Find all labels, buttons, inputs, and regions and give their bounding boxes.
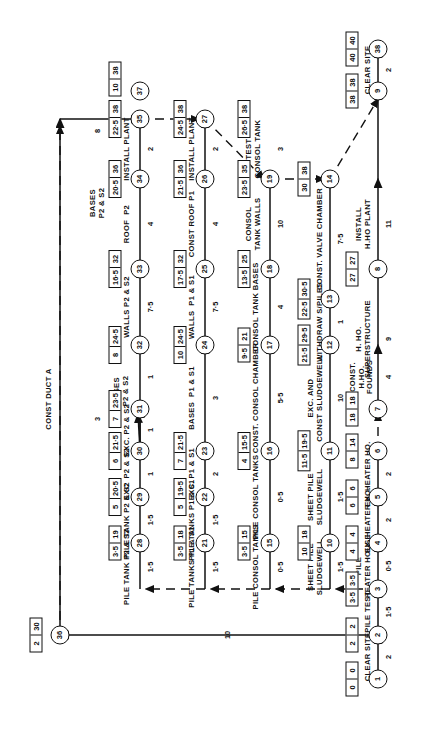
- early-time: 11·5: [299, 452, 310, 471]
- early-time: 20·5: [110, 178, 121, 197]
- event-node-26[interactable]: 26: [196, 170, 215, 189]
- late-time: 4: [347, 527, 358, 544]
- early-time: 8: [110, 347, 121, 363]
- duration-15-16: 0·5: [277, 492, 285, 503]
- duration-32-33: 7·5: [147, 302, 155, 313]
- event-node-5[interactable]: 5: [369, 488, 388, 507]
- event-node-25[interactable]: 25: [196, 260, 215, 279]
- duration-7-8: 9: [385, 337, 393, 341]
- event-node-37[interactable]: 37: [131, 82, 150, 101]
- duration-8-9: 11: [385, 220, 393, 228]
- event-node-4[interactable]: 4: [369, 534, 388, 553]
- event-node-34[interactable]: 34: [131, 170, 150, 189]
- activity-label-walls-p1-s1: WALLS P1 & S1: [188, 275, 197, 339]
- time-box-18: 13·525: [238, 250, 251, 288]
- event-node-10[interactable]: 10: [321, 534, 340, 553]
- time-box-35: 22·538: [109, 100, 122, 138]
- event-node-15[interactable]: 15: [261, 534, 280, 553]
- event-node-22[interactable]: 22: [196, 488, 215, 507]
- duration-1-2: 2: [385, 655, 393, 659]
- event-node-24[interactable]: 24: [196, 336, 215, 355]
- time-box-33: 16·532: [109, 250, 122, 288]
- event-node-27[interactable]: 27: [196, 110, 215, 129]
- event-node-36[interactable]: 36: [51, 626, 70, 645]
- late-time: 32: [110, 251, 121, 268]
- early-time: 0: [347, 680, 358, 696]
- time-box-2: 22: [346, 618, 359, 653]
- early-time: 5: [110, 499, 121, 515]
- early-time: 3·5: [175, 544, 186, 560]
- event-node-12[interactable]: 12: [321, 336, 340, 355]
- event-node-11[interactable]: 11: [321, 442, 340, 461]
- event-node-31[interactable]: 31: [131, 400, 150, 419]
- early-time: 27: [347, 270, 358, 286]
- early-time: 5: [175, 499, 186, 515]
- activity-label-const-valve-chamber: CONST. VALVE CHAMBER: [316, 188, 325, 290]
- duration-5-6: 2: [385, 472, 393, 476]
- late-time: 38: [347, 75, 358, 92]
- event-node-29[interactable]: 29: [131, 488, 150, 507]
- time-box-12: 21·529·5: [298, 324, 311, 365]
- time-box-24: 1024·5: [174, 326, 187, 364]
- time-box-25: 17·532: [174, 250, 187, 288]
- event-node-19[interactable]: 19: [261, 170, 280, 189]
- event-node-32[interactable]: 32: [131, 336, 150, 355]
- duration-30-31: 1: [147, 428, 155, 432]
- time-box-34: 20·536: [109, 160, 122, 198]
- event-node-7[interactable]: 7: [369, 400, 388, 419]
- event-node-2[interactable]: 2: [369, 626, 388, 645]
- late-time: 24·5: [110, 327, 121, 347]
- early-time: 21·5: [175, 178, 186, 197]
- early-time: 8: [347, 452, 358, 468]
- late-time: 15·5: [239, 433, 250, 453]
- event-node-3[interactable]: 3: [369, 580, 388, 599]
- event-node-18[interactable]: 18: [261, 260, 280, 279]
- duration-23-24: 3: [212, 396, 220, 400]
- event-node-16[interactable]: 16: [261, 442, 280, 461]
- activity-label-h-ho-superstructure: H. HO. SUPERSTRUCTURE: [355, 300, 372, 378]
- time-box-28: 3·519: [109, 526, 122, 561]
- activity-label-sheet-pile-sludgewell-2: SHEET PILE SLUDGEWELL: [307, 469, 324, 526]
- time-box-30: 621·5: [109, 432, 122, 470]
- early-time: 7: [175, 453, 186, 469]
- late-time: 38: [110, 63, 121, 80]
- duration-24-25: 7·5: [212, 302, 220, 313]
- activity-label-consol-tank-bases: CONSOL TANK BASES: [252, 262, 261, 351]
- late-time: 36: [110, 161, 121, 178]
- time-box-36: 230: [30, 618, 43, 653]
- late-time: 29·5: [299, 325, 310, 345]
- late-time: 18: [175, 527, 186, 544]
- event-node-8[interactable]: 8: [369, 260, 388, 279]
- event-node-17[interactable]: 17: [261, 336, 280, 355]
- event-node-35[interactable]: 35: [131, 110, 150, 129]
- duration-18-19: 10: [277, 220, 285, 228]
- early-time: 16·5: [110, 268, 121, 287]
- event-node-23[interactable]: 23: [196, 442, 215, 461]
- activity-label-exc-const-sludgewell: EXC. AND CONST SLUDGEWELL: [307, 354, 324, 441]
- time-box-8: 2727: [346, 252, 359, 287]
- time-box-22: 519·5: [174, 478, 187, 516]
- duration-29-30: 1: [147, 472, 155, 476]
- event-node-38[interactable]: 38: [369, 40, 388, 59]
- early-time: 6: [110, 453, 121, 469]
- event-node-30[interactable]: 30: [131, 442, 150, 461]
- time-box-5: 66: [346, 480, 359, 515]
- duration-3-4: 0·5: [385, 561, 393, 572]
- duration-25-26: 4: [212, 222, 220, 226]
- late-time: 21·5: [110, 433, 121, 453]
- event-node-33[interactable]: 33: [131, 260, 150, 279]
- event-node-6[interactable]: 6: [369, 442, 388, 461]
- event-node-13[interactable]: 13: [321, 290, 340, 309]
- early-time: 3·5: [239, 544, 250, 560]
- time-box-1: 00: [346, 662, 359, 697]
- activity-label-const-consol-chamber: CONST. CONSOL CHAMBER: [252, 343, 261, 454]
- event-node-9[interactable]: 9: [369, 82, 388, 101]
- late-time: 38: [299, 163, 310, 180]
- activity-label-install-plant-p2: INSTALL PLANT: [123, 117, 132, 180]
- event-node-1[interactable]: 1: [369, 670, 388, 689]
- late-time: 24·5: [175, 327, 186, 347]
- event-node-21[interactable]: 21: [196, 534, 215, 553]
- event-node-14[interactable]: 14: [321, 170, 340, 189]
- event-node-28[interactable]: 28: [131, 534, 150, 553]
- network-diagram-page: 1 2 3 4 5 6 7 8 9 38 10 11 12 13 14 15 1…: [0, 0, 425, 739]
